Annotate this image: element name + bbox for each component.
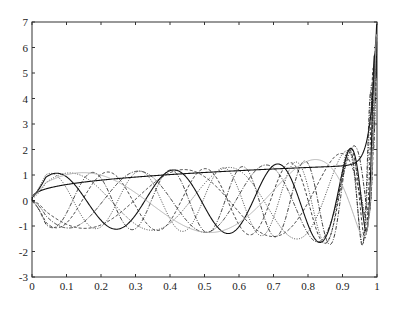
y-tick-label: -2: [19, 246, 28, 258]
y-tick-label: 3: [23, 118, 29, 130]
curve-f1: [32, 42, 377, 243]
y-tick-label: 0: [23, 195, 29, 207]
curve-monotonic: [32, 24, 377, 200]
x-tick-label: 0.6: [232, 280, 246, 292]
x-tick-label: 0: [29, 280, 35, 292]
curve-f4: [32, 41, 377, 242]
x-tick-label: 0.5: [198, 280, 212, 292]
y-axis-labels: -3-2-101234567: [19, 16, 29, 283]
y-tick-label: 6: [23, 42, 29, 54]
x-tick-label: 0.4: [163, 280, 177, 292]
curve-f5: [32, 35, 377, 243]
x-tick-label: 0.2: [94, 280, 108, 292]
y-tick-label: -1: [19, 220, 28, 232]
x-tick-label: 0.9: [336, 280, 350, 292]
y-tick-label: -3: [19, 271, 29, 283]
y-tick-label: 4: [23, 93, 29, 105]
y-tick-label: 1: [23, 169, 29, 181]
x-tick-label: 0.7: [267, 280, 281, 292]
y-tick-label: 7: [23, 16, 29, 28]
y-tick-label: 2: [23, 144, 29, 156]
curve-f6: [32, 36, 377, 244]
curves: [32, 24, 377, 245]
x-tick-label: 0.3: [129, 280, 143, 292]
x-tick-label: 0.1: [60, 280, 74, 292]
curve-f7: [32, 42, 377, 245]
line-chart: 00.10.20.30.40.50.60.70.80.91 -3-2-10123…: [0, 0, 398, 309]
x-tick-label: 1: [374, 280, 380, 292]
y-tick-label: 5: [23, 67, 29, 79]
x-tick-label: 0.8: [301, 280, 315, 292]
x-axis-labels: 00.10.20.30.40.50.60.70.80.91: [29, 280, 380, 292]
curve-f3: [32, 41, 377, 239]
